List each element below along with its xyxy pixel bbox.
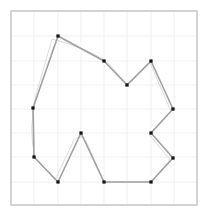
vertex-point — [56, 34, 59, 37]
vertex-point — [149, 131, 152, 134]
vertex-point — [171, 107, 174, 110]
vertex-point — [56, 180, 59, 183]
vertex-point — [171, 156, 174, 159]
vertex-point — [102, 59, 105, 62]
vertex-point — [31, 106, 34, 109]
vertex-point — [32, 155, 35, 158]
vertex-point — [79, 131, 82, 134]
vertex-point — [125, 83, 128, 86]
polygon-diagram — [0, 0, 209, 214]
vertex-point — [102, 180, 105, 183]
vertex-point — [149, 180, 152, 183]
vertex-point — [149, 59, 152, 62]
